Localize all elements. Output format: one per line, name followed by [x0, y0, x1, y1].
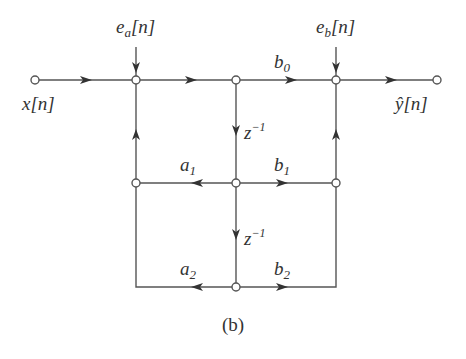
- label-b1: b1: [274, 154, 290, 178]
- node-output: [433, 76, 441, 84]
- signal-flow-graph: x[n] ŷ[n] ea[n] eb[n] b0 a1 b1 a2 b2 z−1…: [0, 0, 466, 359]
- node-sum-b: [332, 76, 340, 84]
- node-w0: [232, 76, 240, 84]
- label-input: x[n]: [21, 93, 55, 114]
- label-output: ŷ[n]: [393, 93, 428, 114]
- node-w1: [232, 179, 240, 187]
- label-delay-1: z−1: [243, 120, 266, 143]
- label-error-b: eb[n]: [316, 16, 355, 40]
- node-feedforward-1: [332, 179, 340, 187]
- node-sum-a: [132, 76, 140, 84]
- node-feedback-1: [132, 179, 140, 187]
- node-w2: [232, 283, 240, 291]
- label-b2: b2: [274, 258, 291, 282]
- node-input: [31, 76, 39, 84]
- label-b0: b0: [274, 51, 291, 75]
- label-a2: a2: [180, 258, 197, 282]
- label-delay-2: z−1: [243, 226, 266, 249]
- label-a1: a1: [180, 154, 196, 178]
- figure-caption: (b): [222, 314, 244, 336]
- label-error-a: ea[n]: [116, 16, 155, 40]
